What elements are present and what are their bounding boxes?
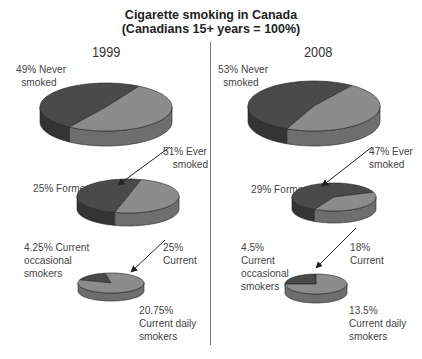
pie-charts: [0, 0, 422, 359]
pie-2: [78, 273, 144, 301]
pie-5: [285, 274, 347, 303]
pie-0: [40, 83, 172, 146]
pie-4: [292, 183, 376, 223]
arrow-ever-to-breakdown-2008: [322, 147, 372, 186]
arrow-current-to-breakdown-1999: [131, 240, 165, 272]
arrow-current-to-breakdown-2008: [316, 228, 356, 268]
pie-1: [77, 179, 179, 226]
pie-3: [248, 81, 380, 146]
arrow-ever-to-breakdown-1999: [118, 147, 170, 185]
